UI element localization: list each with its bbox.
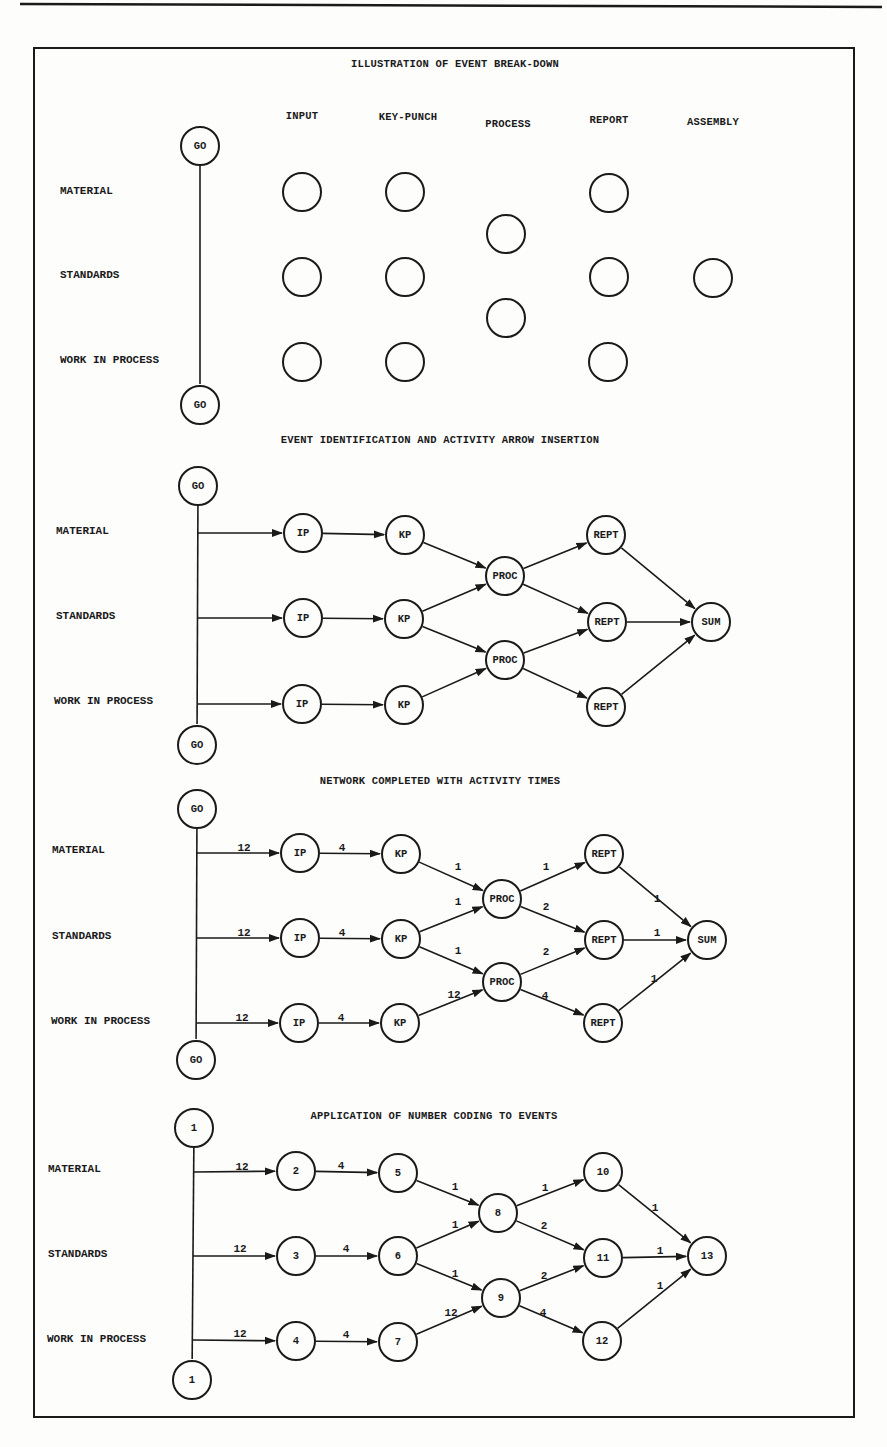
event-node: PROC — [482, 962, 522, 1002]
row-label: MATERIAL — [48, 1163, 101, 1175]
activity-time: 4 — [540, 1307, 547, 1319]
activity-arrow — [523, 668, 587, 698]
event-node: 8 — [478, 1193, 518, 1233]
event-node: PROC — [485, 640, 525, 680]
event-node: 1 — [172, 1360, 212, 1400]
event-label: GO — [192, 480, 205, 492]
column-header: KEY-PUNCH — [379, 111, 438, 123]
row-label: MATERIAL — [56, 525, 109, 537]
event-node: 9 — [481, 1278, 521, 1318]
activity-time: 12 — [235, 1161, 248, 1173]
event-node: IP — [280, 833, 320, 873]
activity-time: 4 — [343, 1329, 350, 1341]
activity-arrow — [316, 1171, 377, 1172]
event-label: IP — [294, 932, 307, 944]
event-label: 12 — [596, 1335, 609, 1347]
event-node — [385, 172, 425, 212]
event-node: KP — [385, 515, 425, 555]
activity-time: 12 — [235, 1012, 248, 1024]
event-label: REPT — [591, 934, 616, 946]
activity-time: 1 — [657, 1245, 664, 1257]
event-node: KP — [384, 599, 424, 639]
event-node: KP — [381, 834, 421, 874]
row-label: WORK IN PROCESS — [47, 1333, 146, 1345]
event-node: PROC — [485, 556, 525, 596]
activity-time: 4 — [338, 1012, 345, 1024]
activity-arrow — [419, 862, 483, 890]
event-node: REPT — [584, 834, 624, 874]
event-label: 10 — [597, 1166, 610, 1178]
event-node: SUM — [691, 602, 731, 642]
event-node: 3 — [276, 1236, 316, 1276]
activity-arrow — [420, 907, 483, 932]
event-node: 13 — [687, 1236, 727, 1276]
activity-time: 1 — [452, 1219, 459, 1231]
activity-arrow — [322, 704, 383, 705]
activity-arrow — [520, 948, 584, 974]
activity-arrow — [422, 584, 485, 611]
event-node: 2 — [276, 1151, 316, 1191]
event-node: KP — [381, 919, 421, 959]
activity-time: 1 — [657, 1280, 664, 1292]
activity-time: 12 — [237, 927, 250, 939]
column-header: ASSEMBLY — [687, 116, 739, 128]
event-label: 5 — [395, 1167, 401, 1179]
activity-arrow — [419, 947, 482, 974]
activity-arrow — [622, 635, 695, 694]
event-label: REPT — [591, 848, 616, 860]
event-node — [282, 172, 322, 212]
event-label: IP — [296, 698, 309, 710]
event-node: 7 — [378, 1322, 418, 1362]
event-label: IP — [297, 527, 310, 539]
figure-frame — [34, 48, 854, 1417]
event-label: 4 — [293, 1335, 299, 1347]
activity-arrow — [521, 990, 584, 1016]
event-label: KP — [398, 699, 411, 711]
activity-arrow — [524, 629, 588, 653]
activity-arrow — [323, 618, 383, 619]
event-node: IP — [279, 1003, 319, 1043]
activity-arrow — [517, 1180, 584, 1206]
event-label: KP — [394, 1017, 407, 1029]
row-label: STANDARDS — [48, 1248, 107, 1260]
event-node — [486, 214, 526, 254]
activity-time: 1 — [452, 1268, 459, 1280]
activity-time: 12 — [444, 1307, 457, 1319]
activity-time: 1 — [652, 1202, 659, 1214]
activity-time: 12 — [237, 842, 250, 854]
event-label: REPT — [594, 616, 619, 628]
activity-time: 12 — [233, 1243, 246, 1255]
activity-time: 1 — [455, 945, 462, 957]
event-node: 4 — [276, 1321, 316, 1361]
event-node — [486, 298, 526, 338]
event-label: GO — [191, 739, 204, 751]
activity-time: 2 — [543, 946, 550, 958]
event-node — [589, 257, 629, 297]
section-title: ILLUSTRATION OF EVENT BREAK-DOWN — [351, 58, 559, 70]
event-label: 9 — [498, 1292, 504, 1304]
column-header: PROCESS — [485, 118, 531, 130]
event-node: 5 — [378, 1153, 418, 1193]
activity-time: 2 — [543, 901, 550, 913]
event-label: REPT — [590, 1017, 615, 1029]
event-node: 6 — [378, 1236, 418, 1276]
activity-time: 1 — [654, 893, 661, 905]
event-node — [282, 257, 322, 297]
event-node: GO — [178, 466, 218, 506]
event-node: 1 — [174, 1108, 214, 1148]
event-node — [385, 257, 425, 297]
event-label: 1 — [189, 1374, 195, 1386]
event-label: IP — [293, 1017, 306, 1029]
activity-arrow — [320, 853, 380, 854]
activity-arrow — [623, 1256, 686, 1257]
activity-arrow — [524, 543, 587, 569]
activity-arrow — [323, 533, 384, 534]
event-node: GO — [180, 126, 220, 166]
column-header: INPUT — [286, 110, 319, 122]
event-node: IP — [283, 513, 323, 553]
activity-arrow — [196, 829, 197, 1039]
event-label: 8 — [495, 1207, 501, 1219]
event-label: PROC — [489, 976, 514, 988]
column-header: REPORT — [589, 114, 628, 126]
event-node: REPT — [587, 602, 627, 642]
